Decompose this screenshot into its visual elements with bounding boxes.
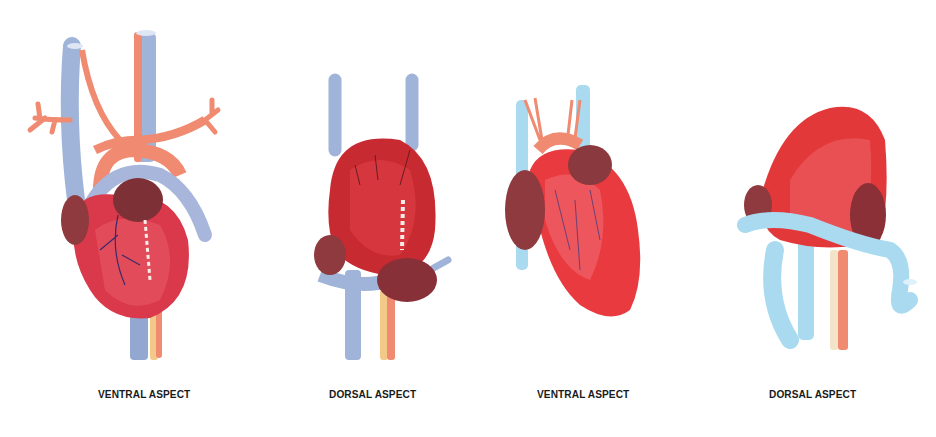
heart-ventral-illustration-2 bbox=[480, 0, 670, 380]
panel-label: DORSAL ASPECT bbox=[329, 388, 416, 400]
heart-dorsal-illustration-2 bbox=[720, 0, 936, 380]
panel-label: VENTRAL ASPECT bbox=[98, 388, 190, 400]
panel-label: VENTRAL ASPECT bbox=[537, 388, 629, 400]
panel-label: DORSAL ASPECT bbox=[769, 388, 856, 400]
panel-dorsal-aspect-2: DORSAL ASPECT bbox=[720, 0, 936, 437]
panel-ventral-aspect-2: VENTRAL ASPECT bbox=[480, 0, 670, 437]
heart-dorsal-illustration-1 bbox=[290, 0, 470, 380]
heart-ventral-illustration-1 bbox=[0, 0, 250, 380]
panel-dorsal-aspect-1: DORSAL ASPECT bbox=[290, 0, 470, 437]
panel-ventral-aspect-1: VENTRAL ASPECT bbox=[0, 0, 250, 437]
